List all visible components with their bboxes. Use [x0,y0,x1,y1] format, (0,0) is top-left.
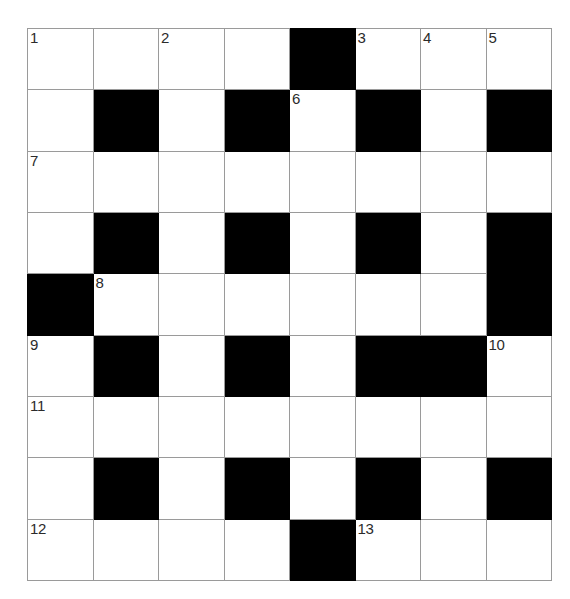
crossword-cell[interactable]: 10 [486,335,552,396]
crossword-cell-blocked [224,90,290,151]
crossword-row [28,212,552,273]
crossword-cell[interactable] [224,274,290,335]
crossword-cell[interactable] [355,396,421,457]
crossword-puzzle: 12345678910111213 [27,28,543,571]
crossword-cell-blocked [224,212,290,273]
crossword-grid[interactable]: 12345678910111213 [27,28,552,581]
crossword-cell[interactable] [421,458,487,519]
crossword-cell[interactable] [28,90,94,151]
crossword-cell[interactable] [93,29,159,90]
crossword-row: 11 [28,396,552,457]
cell-number: 12 [30,520,46,537]
crossword-cell[interactable] [290,396,356,457]
crossword-cell[interactable]: 12 [28,519,94,580]
crossword-row: 1213 [28,519,552,580]
crossword-cell[interactable] [224,29,290,90]
crossword-cell[interactable]: 1 [28,29,94,90]
crossword-cell[interactable] [486,519,552,580]
cell-number: 1 [30,29,38,46]
crossword-row: 7 [28,151,552,212]
crossword-cell-blocked [486,90,552,151]
crossword-cell[interactable] [159,519,225,580]
crossword-row [28,458,552,519]
crossword-cell[interactable]: 7 [28,151,94,212]
crossword-cell[interactable] [28,458,94,519]
crossword-cell[interactable] [159,458,225,519]
cell-number: 4 [423,29,431,46]
crossword-cell-blocked [486,212,552,273]
crossword-cell[interactable] [224,396,290,457]
crossword-cell[interactable] [486,396,552,457]
crossword-cell-blocked [93,458,159,519]
crossword-cell[interactable] [290,335,356,396]
crossword-cell[interactable] [159,274,225,335]
crossword-cell-blocked [355,335,421,396]
crossword-cell[interactable] [421,212,487,273]
cell-number: 13 [358,520,374,537]
crossword-cell[interactable] [421,151,487,212]
crossword-cell[interactable] [93,151,159,212]
crossword-cell[interactable]: 6 [290,90,356,151]
crossword-cell[interactable] [224,519,290,580]
crossword-cell[interactable]: 9 [28,335,94,396]
crossword-cell[interactable] [93,396,159,457]
crossword-cell[interactable]: 13 [355,519,421,580]
crossword-cell[interactable] [290,458,356,519]
cell-number: 8 [96,274,104,291]
cell-number: 9 [30,336,38,353]
crossword-cell-blocked [355,90,421,151]
crossword-cell-blocked [486,458,552,519]
crossword-cell-blocked [355,212,421,273]
crossword-cell-blocked [224,335,290,396]
crossword-cell-blocked [93,90,159,151]
crossword-cell[interactable] [159,151,225,212]
cell-number: 2 [161,29,169,46]
crossword-cell[interactable] [159,396,225,457]
crossword-cell[interactable]: 11 [28,396,94,457]
crossword-cell[interactable]: 2 [159,29,225,90]
crossword-row: 12345 [28,29,552,90]
crossword-row: 6 [28,90,552,151]
crossword-cell[interactable] [159,335,225,396]
crossword-cell-blocked [486,274,552,335]
cell-number: 3 [358,29,366,46]
crossword-cell-blocked [224,458,290,519]
crossword-grid-body: 12345678910111213 [28,29,552,581]
crossword-cell[interactable] [159,90,225,151]
crossword-cell[interactable] [290,212,356,273]
crossword-cell[interactable]: 4 [421,29,487,90]
cell-number: 7 [30,152,38,169]
crossword-cell-blocked [421,335,487,396]
crossword-cell[interactable] [421,90,487,151]
cell-number: 6 [292,90,300,107]
crossword-cell-blocked [93,335,159,396]
crossword-row: 910 [28,335,552,396]
crossword-cell-blocked [28,274,94,335]
crossword-cell[interactable] [93,519,159,580]
crossword-cell-blocked [355,458,421,519]
crossword-cell-blocked [290,29,356,90]
crossword-cell[interactable]: 3 [355,29,421,90]
crossword-cell[interactable] [290,274,356,335]
crossword-cell[interactable] [486,151,552,212]
cell-number: 5 [489,29,497,46]
crossword-cell[interactable] [28,212,94,273]
crossword-cell[interactable] [355,151,421,212]
crossword-cell[interactable] [290,151,356,212]
cell-number: 10 [489,336,505,353]
crossword-cell[interactable]: 5 [486,29,552,90]
crossword-cell[interactable] [421,396,487,457]
cell-number: 11 [30,397,45,414]
crossword-cell[interactable] [421,519,487,580]
crossword-cell[interactable] [421,274,487,335]
crossword-cell[interactable]: 8 [93,274,159,335]
crossword-cell[interactable] [159,212,225,273]
crossword-cell[interactable] [224,151,290,212]
crossword-cell-blocked [290,519,356,580]
crossword-cell-blocked [93,212,159,273]
crossword-cell[interactable] [355,274,421,335]
crossword-row: 8 [28,274,552,335]
